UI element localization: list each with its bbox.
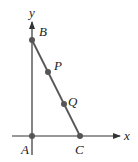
point-p [45, 69, 51, 75]
segment-bc [32, 40, 80, 136]
point-a [29, 133, 35, 139]
coordinate-diagram: y x B P Q A C [0, 0, 138, 162]
label-b: B [39, 24, 47, 39]
point-b [29, 37, 35, 43]
label-p: P [53, 58, 62, 73]
y-axis-label: y [27, 5, 35, 20]
x-axis-label: x [123, 128, 130, 143]
label-c: C [75, 142, 84, 157]
label-q: Q [68, 94, 78, 109]
label-a: A [20, 142, 29, 157]
point-c [77, 133, 83, 139]
point-q [61, 101, 67, 107]
